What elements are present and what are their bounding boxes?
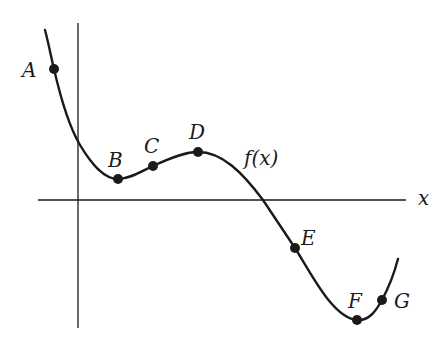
function-label: f(x)	[244, 148, 278, 168]
point-E-marker	[290, 243, 300, 253]
point-F-marker	[352, 315, 362, 325]
point-D-marker	[193, 147, 203, 157]
x-axis-label: x	[418, 188, 429, 208]
point-label-e: E	[301, 228, 316, 248]
point-C-marker	[148, 161, 158, 171]
point-label-g: G	[394, 291, 410, 311]
point-label-b: B	[108, 150, 123, 170]
point-B-marker	[113, 174, 123, 184]
point-A-marker	[49, 64, 59, 74]
point-G-marker	[377, 295, 387, 305]
point-label-f: F	[348, 291, 362, 311]
function-curve	[45, 30, 398, 320]
point-label-d: D	[189, 122, 205, 142]
point-label-c: C	[144, 136, 159, 156]
function-graph	[0, 0, 448, 353]
point-label-a: A	[22, 60, 36, 80]
